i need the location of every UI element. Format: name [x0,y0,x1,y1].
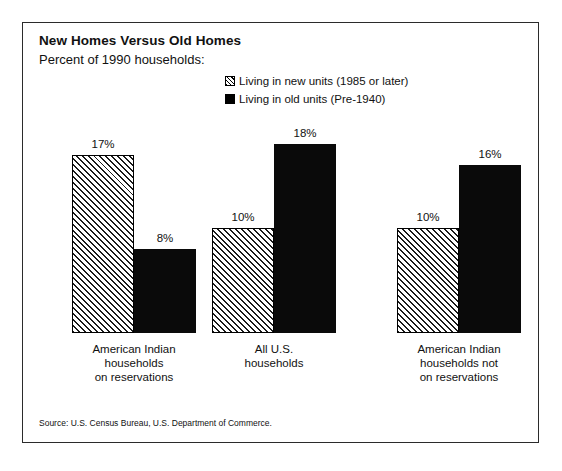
bar-value-label: 16% [459,148,521,160]
bar-new-units [72,155,134,334]
bar-value-label: 10% [212,211,274,223]
bar-old-units [274,144,336,333]
bar-value-label: 18% [274,127,336,139]
chart-figure: New Homes Versus Old Homes Percent of 19… [0,0,562,471]
source-note: Source: U.S. Census Bureau, U.S. Departm… [39,418,272,428]
category-label: American Indian households not on reserv… [371,342,547,384]
bar-old-units [134,249,196,333]
plot-area: 17%8%American Indian households on reser… [23,23,540,444]
bar-value-label: 8% [134,232,196,244]
category-label: All U.S. households [186,342,362,370]
bar-value-label: 17% [72,138,134,150]
bar-old-units [459,165,521,333]
bar-new-units [212,228,274,333]
bar-new-units [397,228,459,333]
bar-value-label: 10% [397,211,459,223]
figure-frame: New Homes Versus Old Homes Percent of 19… [22,22,539,443]
